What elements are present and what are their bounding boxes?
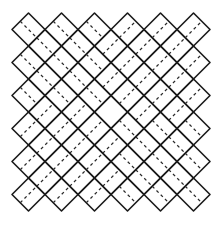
dashed-midline	[86, 21, 103, 38]
dashed-midline	[70, 137, 87, 154]
dashed-midline	[86, 87, 103, 104]
dashed-midlines	[20, 21, 202, 203]
dashed-midline	[169, 71, 186, 88]
dashed-midline	[53, 87, 70, 104]
diamond-cell	[12, 178, 45, 211]
diamond-cell	[12, 46, 45, 79]
dashed-midline	[185, 120, 202, 137]
dashed-midline	[20, 87, 37, 104]
dashed-midline	[185, 186, 202, 203]
dashed-midline	[53, 120, 70, 137]
dashed-midline	[37, 71, 54, 88]
dashed-midline	[37, 38, 54, 55]
dashed-midline	[169, 170, 186, 187]
dashed-midline	[53, 54, 70, 71]
diamond-cell	[177, 112, 210, 145]
dashed-midline	[152, 54, 169, 71]
dashed-midline	[103, 38, 120, 55]
dashed-midline	[119, 21, 136, 38]
dashed-midline	[70, 104, 87, 121]
dashed-midline	[152, 120, 169, 137]
dashed-midline	[119, 87, 136, 104]
dashed-midline	[136, 104, 153, 121]
dashed-midline	[119, 120, 136, 137]
dashed-midline	[136, 137, 153, 154]
diamond-cell	[12, 112, 45, 145]
dashed-midline	[169, 104, 186, 121]
dashed-midline	[103, 71, 120, 88]
dashed-midline	[86, 186, 103, 203]
diamond-cell	[111, 79, 144, 112]
diamond-cell	[78, 178, 111, 211]
dashed-midline	[119, 153, 136, 170]
dashed-midline	[53, 21, 70, 38]
dashed-midline	[185, 153, 202, 170]
dashed-midline	[103, 137, 120, 154]
dashed-midline	[103, 170, 120, 187]
diamond-cell	[78, 13, 111, 46]
diamond-cell	[12, 79, 45, 112]
dashed-midline	[86, 54, 103, 71]
diamond-cell	[45, 13, 78, 46]
dashed-midline	[20, 186, 37, 203]
dashed-midline	[20, 120, 37, 137]
dashed-midline	[20, 153, 37, 170]
diamond-cell	[144, 112, 177, 145]
dashed-midline	[136, 38, 153, 55]
diamond-cell	[45, 178, 78, 211]
dashed-midline	[37, 104, 54, 121]
dashed-midline	[70, 38, 87, 55]
diamond-cell	[12, 13, 45, 46]
dashed-midline	[37, 170, 54, 187]
dashed-midline	[169, 38, 186, 55]
dashed-midline	[70, 170, 87, 187]
diamond-cell	[111, 178, 144, 211]
dashed-midline	[86, 153, 103, 170]
diamond-lattice-pattern	[0, 0, 219, 227]
dashed-midline	[70, 71, 87, 88]
dashed-midline	[185, 87, 202, 104]
dashed-midline	[119, 186, 136, 203]
dashed-midline	[136, 71, 153, 88]
diamond-cell	[12, 145, 45, 178]
dashed-midline	[185, 54, 202, 71]
dashed-midline	[119, 54, 136, 71]
dashed-midline	[152, 87, 169, 104]
diamond-cell	[128, 96, 161, 129]
dashed-midline	[152, 186, 169, 203]
diagram-canvas	[0, 0, 219, 227]
diamond-cell	[161, 96, 194, 129]
dashed-midline	[20, 54, 37, 71]
dashed-midline	[152, 153, 169, 170]
dashed-midline	[136, 170, 153, 187]
dashed-midline	[86, 120, 103, 137]
dashed-midline	[185, 21, 202, 38]
dashed-midline	[53, 186, 70, 203]
dashed-midline	[37, 137, 54, 154]
dashed-midline	[169, 137, 186, 154]
dashed-midline	[152, 21, 169, 38]
dashed-midline	[53, 153, 70, 170]
dashed-midline	[20, 21, 37, 38]
